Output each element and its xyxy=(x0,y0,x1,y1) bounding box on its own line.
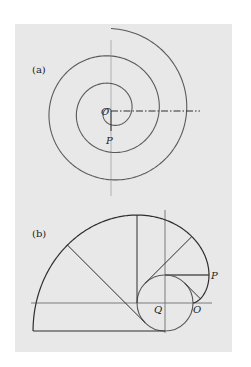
figure-b-label: (b) xyxy=(32,228,46,239)
figure-a-label: (a) xyxy=(32,64,46,75)
figure: (a) O P (b) P Q O xyxy=(0,0,251,367)
figure-a-point-P-label: P xyxy=(105,135,113,146)
figure-b-point-Q-label: Q xyxy=(154,304,162,315)
figure-b-point-P-label: P xyxy=(210,270,218,281)
figure-b-point-O-label: O xyxy=(193,304,201,315)
figure-a-point-O-label: O xyxy=(101,106,109,117)
